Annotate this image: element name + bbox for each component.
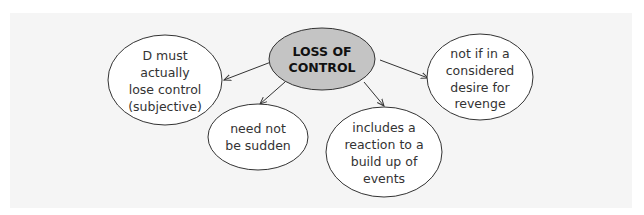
arrow-to-bottom-right [364, 82, 384, 106]
node-bottom-right-line-3: build up of [351, 154, 418, 169]
node-right-line-4: revenge [454, 96, 505, 111]
node-left-line-3: lose control [129, 82, 202, 97]
center-node: LOSS OF CONTROL [269, 28, 375, 90]
mind-map: LOSS OF CONTROL D must actually lose con… [0, 0, 644, 215]
node-bottom-right: includes a reaction to a build up of eve… [326, 107, 442, 197]
node-bottom-left: need not be sudden [208, 104, 308, 170]
node-right-line-2: considered [446, 63, 515, 78]
node-bottom-left-line-2: be sudden [225, 138, 291, 153]
center-label-line-1: LOSS OF [292, 44, 351, 59]
node-right: not if in a considered desire for reveng… [427, 34, 533, 120]
node-bottom-right-line-2: reaction to a [344, 137, 423, 152]
node-right-line-3: desire for [450, 80, 510, 95]
arrow-to-right [380, 60, 428, 78]
node-right-line-1: not if in a [450, 46, 509, 61]
node-bottom-left-line-1: need not [230, 121, 286, 136]
node-bottom-right-line-4: events [363, 171, 405, 186]
center-label-line-2: CONTROL [288, 60, 355, 75]
node-bottom-right-line-1: includes a [352, 120, 415, 135]
node-left-line-4: (subjective) [128, 99, 202, 114]
arrow-to-left [224, 62, 271, 80]
node-left: D must actually lose control (subjective… [108, 35, 222, 125]
arrow-to-bottom-left [260, 82, 285, 104]
node-left-line-2: actually [140, 65, 190, 80]
node-left-line-1: D must [142, 48, 187, 63]
